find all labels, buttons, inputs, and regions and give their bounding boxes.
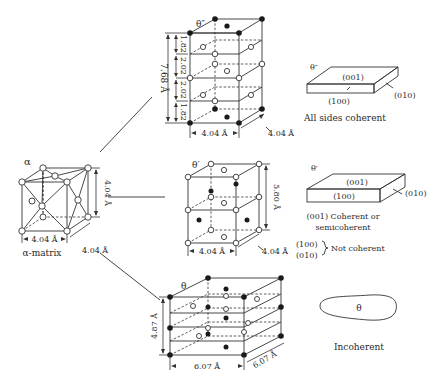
alpha-matrix-caption: α-matrix xyxy=(23,248,62,258)
theta-double-prime-top-face: (001) xyxy=(342,73,364,82)
alpha-matrix-unit-cell xyxy=(19,165,100,243)
theta-height-label: 4.87 Å xyxy=(150,313,159,339)
alpha-depth-label: 4.04 Å xyxy=(82,246,108,255)
theta-double-prime-segment-1: 1.82 xyxy=(179,35,188,53)
theta-double-prime-side-face: (010) xyxy=(394,91,416,100)
theta-double-prime-caption: All sides coherent xyxy=(303,113,386,123)
theta-symbol: θ xyxy=(181,281,186,291)
theta-double-prime-width-label: 4.04 Å xyxy=(201,129,227,138)
theta-prime-width-label: 4.04 Å xyxy=(199,247,225,256)
precipitate-structure-diagram: α 4.04 Å 4.04 Å 4.04 Å α-matrix xyxy=(0,0,442,387)
theta-prime-symbol: θ′ xyxy=(192,160,199,170)
theta-double-prime-depth-label: 4.04 Å xyxy=(268,129,294,138)
theta-double-prime-segment-3: 2.02 xyxy=(179,81,188,99)
theta-prime-top-face: (001) xyxy=(346,178,368,187)
theta-prime-height-label: 5.80 Å xyxy=(272,184,281,210)
alpha-symbol: α xyxy=(24,156,31,167)
theta-prime-depth-label: 4.04 Å xyxy=(262,247,288,256)
theta-prime-unit-cell xyxy=(185,161,270,256)
alpha-width-label: 4.04 Å xyxy=(31,235,57,244)
theta-caption: Incoherent xyxy=(334,342,384,352)
theta-double-prime-front-face: (100) xyxy=(328,97,350,106)
theta-prime-note-face-1: (100) xyxy=(296,240,318,249)
theta-double-prime-segment-2: 2.02 xyxy=(179,57,188,75)
alpha-height-label: 4.04 Å xyxy=(103,180,112,206)
theta-prime-note-text: Not coherent xyxy=(331,244,385,253)
theta-double-prime-plate-symbol: θ″ xyxy=(310,63,318,72)
theta-width-label: 6.07 Å xyxy=(194,362,220,371)
theta-particle-symbol: θ xyxy=(356,303,361,313)
brace xyxy=(322,241,328,255)
theta-prime-plate-symbol: θ′ xyxy=(311,164,318,173)
theta-prime-front-face: (100) xyxy=(333,192,355,201)
theta-double-prime-segment-4: 1.82 xyxy=(179,103,188,121)
theta-double-prime-height-label: 7.68 Å xyxy=(159,63,170,93)
theta-prime-caption-line1: (001) Coherent or xyxy=(307,212,380,221)
theta-double-prime-symbol: θ″ xyxy=(196,19,205,29)
theta-prime-side-face: (010) xyxy=(405,189,427,198)
theta-prime-note-face-2: (010) xyxy=(296,251,318,260)
theta-prime-caption-line2: semicoherent xyxy=(315,223,371,232)
